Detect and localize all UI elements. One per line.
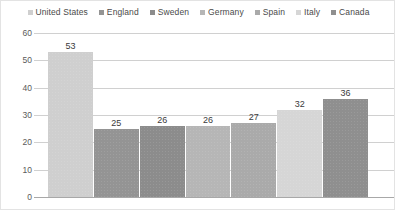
legend-swatch-icon <box>150 10 155 15</box>
legend-item-label: United States <box>36 7 88 17</box>
legend-item[interactable]: Italy <box>296 7 320 17</box>
legend-item-label: Canada <box>339 7 369 17</box>
legend-item[interactable]: United States <box>28 7 88 17</box>
bar-value-label: 26 <box>140 115 185 125</box>
bar-rect[interactable] <box>323 99 368 197</box>
bar-chart: United StatesEnglandSwedenGermanySpainIt… <box>0 0 395 210</box>
legend-item-label: Italy <box>304 7 320 17</box>
chart-legend: United StatesEnglandSwedenGermanySpainIt… <box>1 5 395 19</box>
legend-item-label: Germany <box>208 7 244 17</box>
plot-area: 6050403020100 53252626273236 <box>1 19 395 210</box>
bar-rect[interactable] <box>186 126 231 197</box>
y-axis-tick-label: 50 <box>4 56 32 65</box>
bar-column[interactable]: 25 <box>94 33 139 197</box>
y-axis-tick-label: 10 <box>4 165 32 174</box>
bar-value-label: 27 <box>231 112 276 122</box>
bar-value-label: 32 <box>277 99 322 109</box>
y-axis-tick-label: 0 <box>4 193 32 202</box>
bar-rect[interactable] <box>94 129 139 197</box>
bar-column[interactable]: 32 <box>277 33 322 197</box>
legend-item[interactable]: Canada <box>331 7 369 17</box>
legend-swatch-icon <box>331 10 336 15</box>
bar-rect[interactable] <box>231 123 276 197</box>
bar-column[interactable]: 26 <box>140 33 185 197</box>
bar-value-label: 26 <box>186 115 231 125</box>
legend-item-label: Spain <box>263 7 285 17</box>
legend-item-label: Sweden <box>158 7 189 17</box>
legend-swatch-icon <box>99 10 104 15</box>
bar-rect[interactable] <box>277 110 322 197</box>
bar-rect[interactable] <box>48 52 93 197</box>
y-axis: 6050403020100 <box>1 19 32 210</box>
bar-column[interactable]: 27 <box>231 33 276 197</box>
legend-item[interactable]: Sweden <box>150 7 189 17</box>
bar-value-label: 53 <box>48 41 93 51</box>
bar-column[interactable]: 53 <box>48 33 93 197</box>
bar-rect[interactable] <box>140 126 185 197</box>
axis-baseline <box>34 197 394 198</box>
legend-item-label: England <box>107 7 139 17</box>
legend-swatch-icon <box>255 10 260 15</box>
legend-swatch-icon <box>28 10 33 15</box>
y-axis-tick-label: 40 <box>4 83 32 92</box>
bar-value-label: 36 <box>323 88 368 98</box>
bar-series: 53252626273236 <box>48 33 368 197</box>
y-axis-tick-label: 30 <box>4 111 32 120</box>
legend-swatch-icon <box>296 10 301 15</box>
legend-item[interactable]: Germany <box>200 7 244 17</box>
bar-value-label: 25 <box>94 118 139 128</box>
legend-swatch-icon <box>200 10 205 15</box>
legend-item[interactable]: England <box>99 7 139 17</box>
bar-column[interactable]: 36 <box>323 33 368 197</box>
y-axis-tick-label: 20 <box>4 138 32 147</box>
y-axis-tick-label: 60 <box>4 29 32 38</box>
legend-item[interactable]: Spain <box>255 7 285 17</box>
bar-column[interactable]: 26 <box>186 33 231 197</box>
